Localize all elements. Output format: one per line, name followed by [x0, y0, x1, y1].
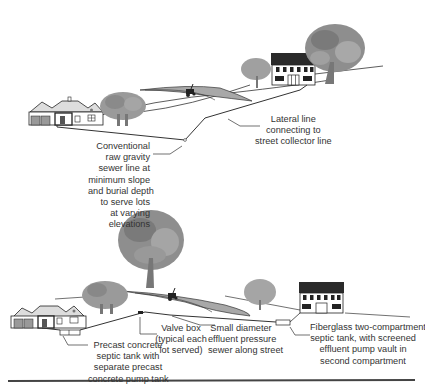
label-line: connecting to — [255, 125, 332, 136]
label-line: Conventional — [88, 141, 150, 152]
house-ranch-top — [29, 97, 103, 125]
label-gravity-sewer: Conventional raw gravity sewer line at m… — [88, 141, 150, 231]
label-line: Small diameter — [208, 323, 274, 334]
label-line: street collector line — [255, 136, 332, 147]
precast-septic-tank — [60, 330, 80, 335]
valve-box-icon — [138, 311, 143, 314]
label-line: septic tank, with screened — [310, 333, 416, 344]
label-line: second compartment — [310, 356, 416, 367]
tree-icon — [100, 92, 146, 126]
label-line: concrete pump tank — [88, 374, 168, 385]
label-line: separate precast — [88, 362, 168, 373]
label-line: elevations — [88, 219, 150, 230]
label-line: to serve lots — [88, 197, 150, 208]
tree-icon — [244, 279, 276, 310]
fiberglass-septic-tank — [276, 320, 290, 325]
label-line: sewer line at — [88, 163, 150, 174]
tree-icon — [82, 281, 128, 314]
label-line: Lateral line — [255, 114, 332, 125]
bottom-rule — [8, 380, 415, 381]
label-lateral-line: Lateral line connecting to street collec… — [255, 114, 332, 148]
label-line: and burial depth — [88, 186, 150, 197]
label-line: sewer along street — [208, 345, 274, 356]
label-line: effluent pressure — [208, 334, 274, 345]
label-line: minimum slope — [88, 175, 150, 186]
house-colonial-bottom — [299, 282, 344, 313]
label-line: raw gravity — [88, 152, 150, 163]
label-line: (typical each — [155, 334, 207, 345]
tree-icon — [241, 58, 271, 88]
label-line: effluent pump vault in — [310, 344, 416, 355]
label-line: at varying — [88, 208, 150, 219]
house-ranch-bottom — [11, 306, 86, 328]
field-strip — [140, 86, 252, 101]
label-pressure-sewer: Small diameter effluent pressure sewer a… — [208, 323, 274, 357]
label-valve-box: Valve box (typical each lot served) — [155, 323, 207, 357]
label-fiberglass-tank: Fiberglass two-compartment septic tank, … — [310, 322, 416, 367]
label-line: Fiberglass two-compartment — [310, 322, 416, 333]
label-line: Valve box — [155, 323, 207, 334]
label-line: lot served) — [155, 345, 207, 356]
